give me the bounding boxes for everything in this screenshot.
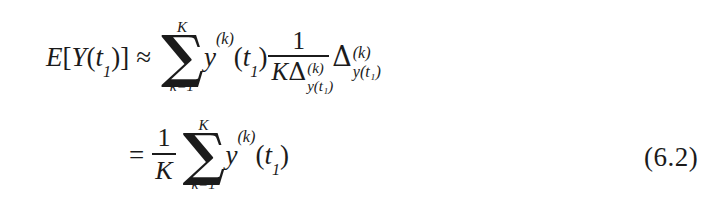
paren-close: ) [280, 140, 289, 170]
equation-number: (6.2) [644, 142, 698, 173]
delta-icon: Δ [332, 41, 352, 72]
bracket-close: ] [120, 42, 129, 72]
summand-term: y(k)(t1) [226, 142, 290, 169]
symbol-t: t [96, 42, 104, 72]
equation-line-1: E[Y(t1)] ≈ K ∑ k=1 y(k)(t1) 1 KΔ(k)y(t₁)… [46, 12, 352, 102]
delta-icon: Δ [288, 57, 306, 86]
summation-operator: K ∑ k=1 [183, 118, 225, 192]
y-superscript: (k) [216, 30, 234, 48]
fraction-denominator: K [152, 156, 175, 186]
paren-close: ) [111, 42, 120, 72]
one-over-k-fraction: 1 K [152, 124, 175, 185]
equation-line-2: = 1 K K ∑ k=1 y(k)(t1) [122, 112, 289, 198]
expectation-lhs: E[Y(t1)] [46, 44, 129, 71]
approx-equal-sign: ≈ [129, 44, 158, 71]
fraction-denominator: KΔ(k)y(t₁) [268, 58, 329, 87]
paren-open: ( [234, 42, 243, 72]
t-subscript: 1 [250, 63, 258, 81]
t-subscript: 1 [272, 161, 280, 179]
paren-open: ( [87, 42, 96, 72]
delta-superscript: (k) [353, 45, 371, 61]
y-superscript: (k) [237, 128, 255, 146]
symbol-E: E [46, 42, 63, 72]
symbol-t: t [264, 140, 272, 170]
equals-sign: = [122, 142, 151, 169]
paren-close: ) [258, 42, 267, 72]
fraction-numerator: 1 [268, 28, 329, 54]
fraction-bar [152, 153, 175, 155]
bracket-open: [ [63, 42, 72, 72]
summation-operator: K ∑ k=1 [161, 20, 203, 94]
sigma-icon: ∑ [161, 33, 203, 80]
sigma-icon: ∑ [183, 131, 225, 178]
delta-subscript: y(t₁) [307, 78, 333, 95]
equation-block: E[Y(t1)] ≈ K ∑ k=1 y(k)(t1) 1 KΔ(k)y(t₁)… [0, 0, 723, 201]
trailing-delta-term: Δ(k)y(t₁) [332, 43, 352, 71]
delta-subscript: y(t₁) [353, 64, 381, 80]
t-subscript: 1 [103, 63, 111, 81]
symbol-y: y [226, 140, 238, 170]
delta-superscript: (k) [307, 60, 324, 77]
symbol-y: y [204, 42, 216, 72]
symbol-K: K [271, 58, 288, 85]
summand-term: y(k)(t1) [204, 44, 268, 71]
weight-fraction: 1 KΔ(k)y(t₁) [268, 28, 329, 87]
fraction-numerator: 1 [152, 124, 175, 151]
symbol-Y: Y [72, 42, 87, 72]
